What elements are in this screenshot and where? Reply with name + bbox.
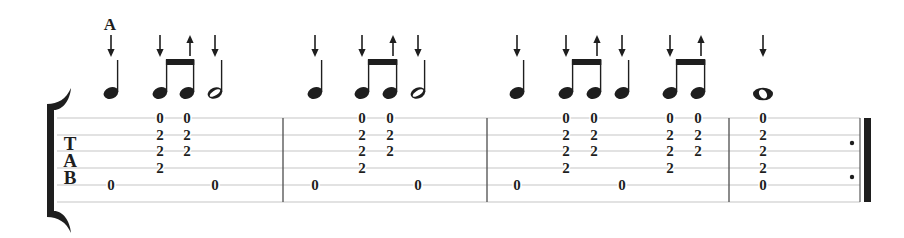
tab-number-string-2: 2 [156,127,164,143]
tab-number-string-3: 2 [666,143,674,159]
tab-number-string-2: 2 [562,127,570,143]
measure-2 [306,35,427,101]
tab-number-string-2: 2 [666,127,674,143]
tab-number-string-3: 2 [156,143,164,159]
upstroke-arrow-icon [697,35,704,56]
note-event [661,35,679,101]
staff-lines [57,118,860,202]
tab-number-string-1: 0 [358,110,366,126]
tab-number-string-1: 0 [562,110,570,126]
tab-clef: T A B [63,133,77,188]
arrow-head [211,49,218,57]
tab-number-string-1: 0 [590,110,598,126]
arrow-head [107,49,114,57]
arrow-head [311,49,318,57]
tab-number-string-1: 0 [694,110,702,126]
upstroke-arrow-icon [389,35,396,56]
tab-number-string-4: 2 [156,160,164,176]
chord-symbol: A [104,15,117,34]
tab-number-string-5: 0 [107,177,115,193]
downstroke-arrow-icon [156,35,163,57]
eighth-note-beam [572,59,601,65]
arrow-head [156,49,163,57]
note-event [353,35,371,101]
rhythm-notation [102,35,773,101]
note-event [306,35,324,101]
arrow-head [358,49,365,57]
tab-number-string-3: 2 [562,143,570,159]
note-event [557,35,575,101]
barlines [283,118,871,202]
measure-1 [102,35,224,101]
arrow-head [562,49,569,57]
note-event [508,35,526,101]
arrow-head [513,49,520,57]
arrow-head [697,35,704,43]
tab-number-string-2: 2 [590,127,598,143]
downstroke-arrow-icon [513,35,520,57]
arrow-head [593,35,600,43]
bracket-bar [47,106,54,215]
downstroke-arrow-icon [562,35,569,57]
bracket-top-curl [47,88,71,110]
eighth-note-beam [676,59,705,65]
note-event [178,35,196,101]
tab-number-string-2: 2 [358,127,366,143]
tab-number-string-1: 0 [386,110,394,126]
downstroke-arrow-icon [618,35,625,57]
repeat-dot-2 [850,175,854,179]
tab-number-string-4: 2 [562,160,570,176]
note-event [613,35,631,101]
note-event [585,35,603,101]
arrow-head [666,49,673,57]
tab-number-string-5: 0 [414,177,422,193]
arrow-head [186,35,193,43]
note-event [102,35,120,101]
measure-4-tab: 02220 [759,110,767,193]
tab-number-string-2: 2 [694,127,702,143]
tab-number-string-1: 0 [183,110,191,126]
bracket-bottom-curl [47,211,71,233]
measure-4 [753,35,773,100]
downstroke-arrow-icon [211,35,218,57]
final-thick-barline [864,118,871,202]
tab-number-string-2: 2 [386,127,394,143]
note-event [409,35,427,101]
upstroke-arrow-icon [186,35,193,56]
arrow-head [389,35,396,43]
tab-number-string-5: 0 [759,177,767,193]
tab-number-string-3: 2 [183,143,191,159]
downstroke-arrow-icon [311,35,318,57]
tab-number-string-3: 2 [386,143,394,159]
downstroke-arrow-icon [759,35,766,57]
arrow-head [759,49,766,57]
tab-number-string-1: 0 [759,110,767,126]
note-event [206,35,224,101]
tab-number-string-1: 0 [666,110,674,126]
note-event [381,35,399,101]
note-event [151,35,169,101]
tab-number-string-5: 0 [311,177,319,193]
tab-number-string-3: 2 [358,143,366,159]
note-event [753,35,773,100]
tab-number-string-3: 2 [694,143,702,159]
tab-number-string-4: 2 [666,160,674,176]
tab-clef-b: B [64,167,77,188]
tab-number-string-5: 0 [211,177,219,193]
tab-staff-notation: T A B A 00222022000222022000222022002220… [0,0,904,238]
repeat-dot-1 [850,141,854,145]
tab-number-string-2: 2 [759,127,767,143]
measure-3 [508,35,707,101]
upstroke-arrow-icon [593,35,600,56]
arrow-head [618,49,625,57]
tab-number-string-1: 0 [156,110,164,126]
tab-number-string-4: 2 [358,160,366,176]
eighth-note-beam [166,59,194,65]
tab-number-string-4: 2 [759,160,767,176]
downstroke-arrow-icon [414,35,421,57]
tab-number-string-5: 0 [513,177,521,193]
note-event [689,35,707,101]
eighth-note-beam [368,59,397,65]
tab-number-string-3: 2 [590,143,598,159]
downstroke-arrow-icon [666,35,673,57]
